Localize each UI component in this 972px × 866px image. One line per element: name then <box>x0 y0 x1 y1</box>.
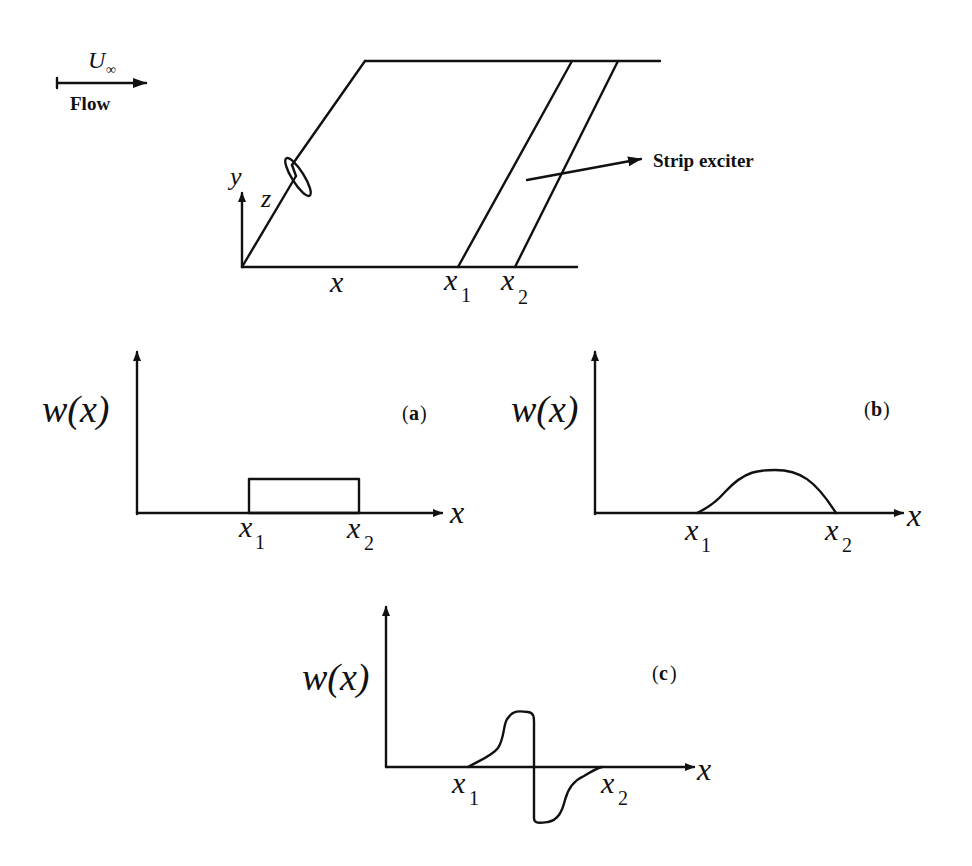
panel-a-x1-label: x <box>238 510 253 543</box>
y-axis-label: y <box>227 162 242 191</box>
panel-b-xlabel: x <box>906 497 921 533</box>
z-axis-label: z <box>260 184 271 213</box>
flow-label: Flow <box>70 93 110 114</box>
x1-label: x <box>443 263 458 296</box>
flow-indicator: U ∞ Flow <box>57 47 146 114</box>
panel-a-rectangular-distribution <box>249 479 359 513</box>
x-axis-label: x <box>329 265 344 298</box>
panel-b-tag: b <box>871 398 882 420</box>
plate-leading-edge-upper <box>292 61 365 165</box>
panel-c-tag-close: ) <box>670 662 677 685</box>
panel-a-rectangular-profile: w(x) ( a ) x x 1 x 2 <box>42 352 464 554</box>
panel-b-x2-subscript: 2 <box>842 534 852 556</box>
panel-c-xlabel: x <box>696 751 711 787</box>
strip-exciter-diagram: U ∞ Flow Strip exciter y z x x 1 x 2 <box>0 0 972 866</box>
panel-a-tag-close: ) <box>420 402 427 425</box>
strip-edge-x2 <box>515 61 618 267</box>
panel-a-tag: a <box>409 402 419 424</box>
panel-b-x1-label: x <box>684 513 699 546</box>
panel-a-x1-subscript: 1 <box>255 531 265 553</box>
panel-c-x1-label: x <box>451 766 466 799</box>
panel-a-tag-open: ( <box>402 402 409 425</box>
panel-b-x1-subscript: 1 <box>701 534 711 556</box>
x2-label: x <box>500 263 515 296</box>
panel-b-half-sine-distribution <box>697 470 836 513</box>
strip-exciter-arrow-icon <box>527 159 641 180</box>
plate-leading-edge-break <box>292 165 296 176</box>
plate-diagram: Strip exciter y z x x 1 x 2 <box>227 61 754 308</box>
panel-c-x2-subscript: 2 <box>618 787 628 809</box>
panel-b-tag-open: ( <box>864 398 871 421</box>
panel-c-ylabel: w(x) <box>302 656 370 699</box>
panel-b-x2-label: x <box>824 513 839 546</box>
panel-b-half-sine-profile: w(x) ( b ) x x 1 x 2 <box>511 352 921 556</box>
freestream-velocity-label: U <box>88 47 107 73</box>
freestream-velocity-subscript: ∞ <box>106 62 116 77</box>
x1-subscript: 1 <box>461 284 471 306</box>
panel-b-tag-close: ) <box>883 398 890 421</box>
panel-c-tag-open: ( <box>652 662 659 685</box>
strip-edge-x1 <box>458 61 572 267</box>
panel-c-tag: c <box>659 662 668 684</box>
x2-subscript: 2 <box>518 286 528 308</box>
panel-a-ylabel: w(x) <box>42 388 110 431</box>
panel-a-xlabel: x <box>449 494 464 530</box>
panel-a-x2-subscript: 2 <box>364 532 374 554</box>
strip-exciter-label: Strip exciter <box>653 150 754 171</box>
panel-c-x2-label: x <box>600 766 615 799</box>
panel-b-ylabel: w(x) <box>511 388 579 431</box>
panel-c-x1-subscript: 1 <box>469 787 479 809</box>
panel-c-antisymmetric-profile: w(x) ( c ) x x 1 x 2 <box>302 607 711 823</box>
panel-a-x2-label: x <box>346 511 361 544</box>
